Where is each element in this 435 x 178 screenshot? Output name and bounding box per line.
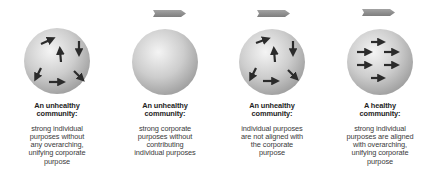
- caption-title: An unhealthy community:: [3, 102, 111, 119]
- sphere-with-banner-icon: [111, 0, 219, 100]
- caption: A healthy community: strong individual p…: [326, 102, 434, 166]
- caption-title: An unhealthy community:: [218, 102, 326, 119]
- caption-description: individual purposes are not aligned with…: [218, 125, 326, 158]
- caption-description: strong individual purposes without any o…: [3, 125, 111, 166]
- caption: An unhealthy community: strong corporate…: [111, 102, 219, 158]
- caption-title: A healthy community:: [326, 102, 434, 119]
- caption: An unhealthy community: strong individua…: [3, 102, 111, 166]
- caption-title: An unhealthy community:: [111, 102, 219, 119]
- caption-description: strong individual purposes are aligned w…: [326, 125, 434, 166]
- panel-unhealthy-individual: An unhealthy community: strong individua…: [3, 0, 111, 178]
- caption-description: strong corporate purposes without contri…: [111, 125, 219, 158]
- sphere-banner-random-arrows-icon: [218, 0, 326, 100]
- sphere-random-arrows-icon: [3, 0, 111, 100]
- sphere-banner-aligned-arrows-icon: [326, 0, 434, 100]
- panel-unhealthy-corporate: An unhealthy community: strong corporate…: [111, 0, 219, 178]
- caption: An unhealthy community: individual purpo…: [218, 102, 326, 158]
- direction-banner-icon: [257, 10, 290, 17]
- direction-banner-icon: [362, 9, 395, 16]
- direction-banner-icon: [153, 10, 186, 17]
- panel-unhealthy-misaligned: An unhealthy community: individual purpo…: [218, 0, 326, 178]
- panel-healthy-aligned: A healthy community: strong individual p…: [326, 0, 434, 178]
